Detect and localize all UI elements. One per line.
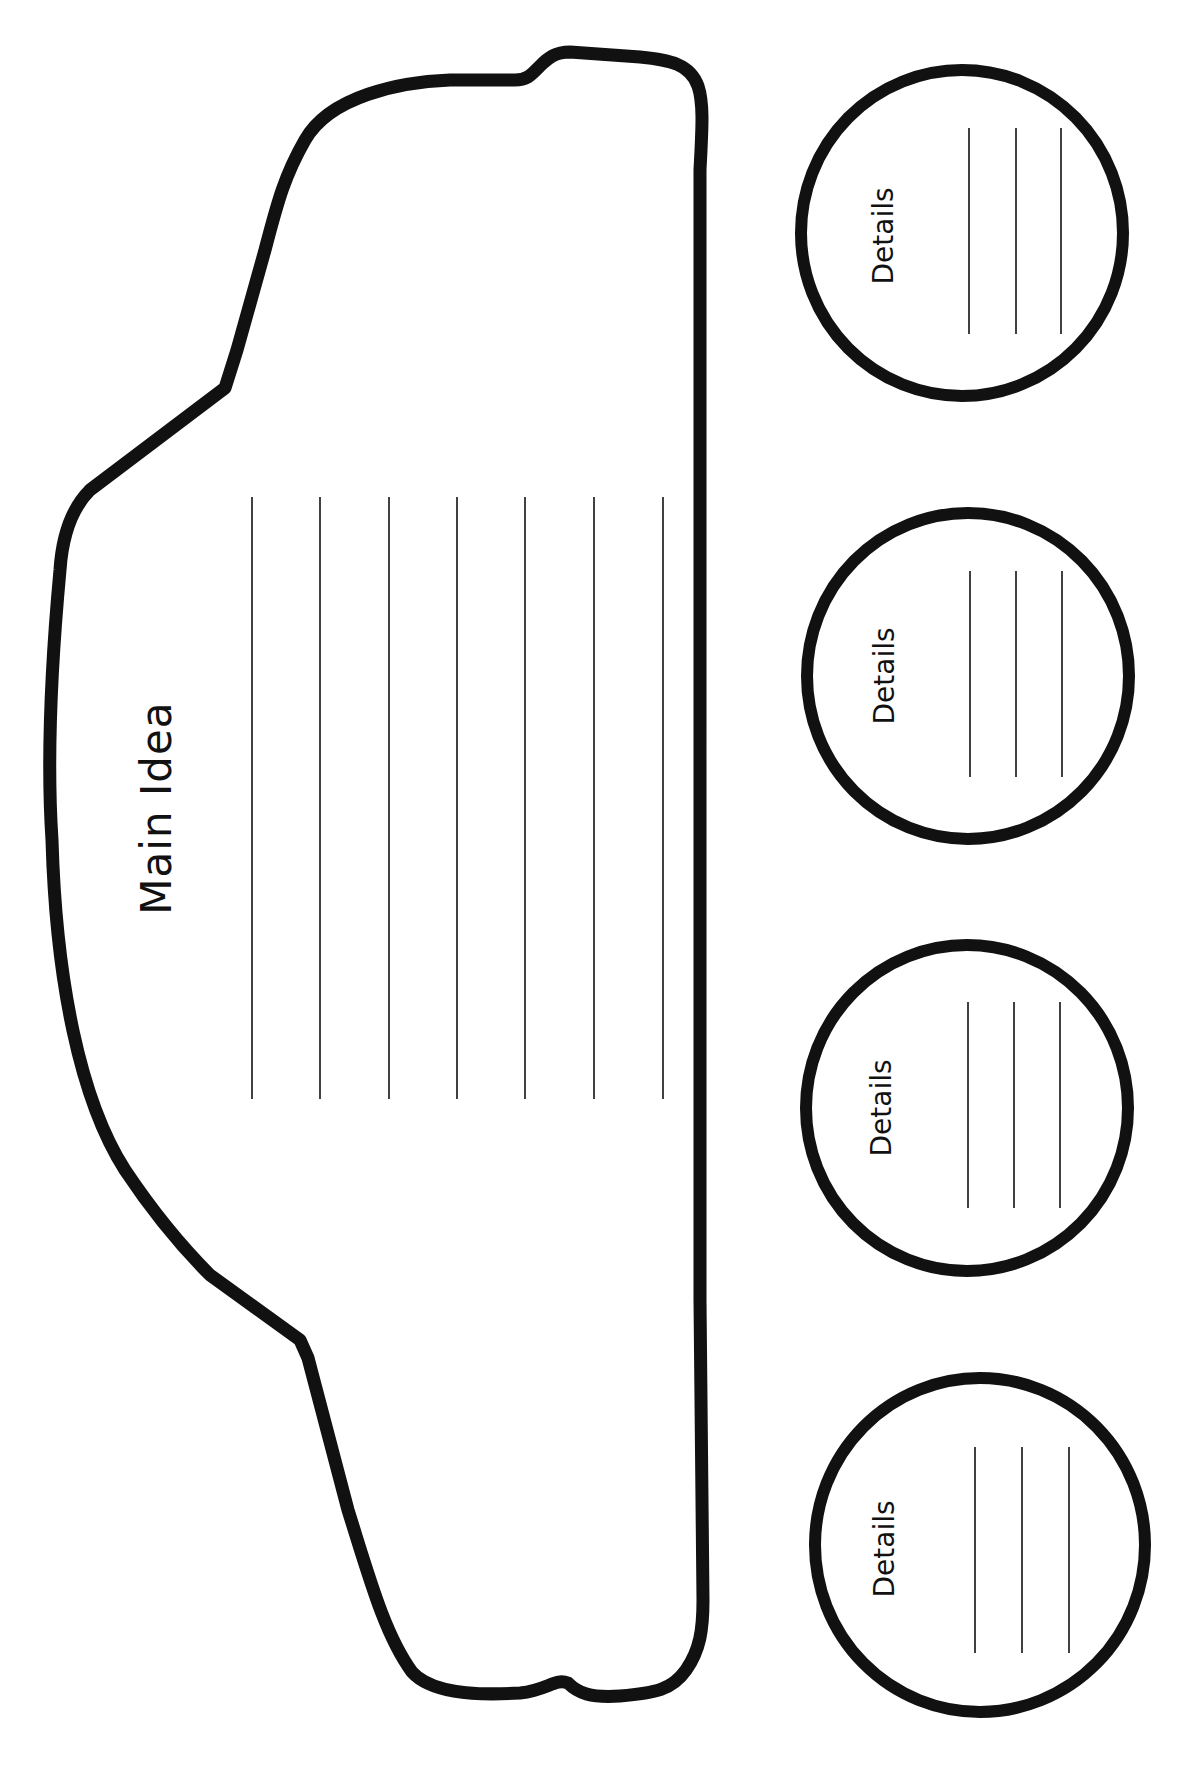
details-circle-2 bbox=[807, 513, 1129, 839]
details-circle-1 bbox=[801, 70, 1123, 396]
details-label-1: Details bbox=[867, 187, 900, 284]
details-label-4: Details bbox=[868, 1500, 901, 1597]
details-label-3: Details bbox=[865, 1059, 898, 1156]
details-circle-3 bbox=[806, 945, 1128, 1271]
details-circle-4 bbox=[815, 1378, 1145, 1712]
main-idea-label: Main Idea bbox=[132, 701, 181, 914]
details-label-2: Details bbox=[868, 627, 901, 724]
worksheet-page: Main Idea Details Details Details Detail… bbox=[0, 0, 1181, 1782]
